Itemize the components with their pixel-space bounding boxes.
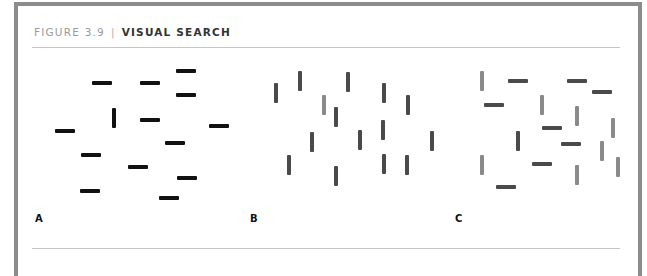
panel-c-line-horizontal xyxy=(484,103,504,107)
panel-b-line-vertical xyxy=(346,72,350,92)
panel-b-line-vertical xyxy=(287,155,291,175)
panel-c-line-vertical xyxy=(480,155,484,175)
panel-a-line-horizontal xyxy=(55,129,75,133)
panel-c-line-horizontal xyxy=(561,142,581,146)
panel-a-line-horizontal xyxy=(209,124,229,128)
panel-b-line-vertical xyxy=(382,83,386,103)
figure-heading: VISUAL SEARCH xyxy=(122,26,231,38)
panel-a-line-horizontal xyxy=(140,118,160,122)
panel-b-line-vertical xyxy=(334,107,338,127)
panel-a-line-horizontal xyxy=(177,176,197,180)
panel-b-line-vertical xyxy=(358,130,362,150)
panel-c-line-vertical xyxy=(575,106,579,126)
panel-a-line-horizontal xyxy=(176,93,196,97)
panel-b-line-vertical xyxy=(298,71,302,91)
panel-label-b: B xyxy=(250,213,258,224)
panel-c-line-horizontal xyxy=(592,90,612,94)
panel-a-line-horizontal xyxy=(176,69,196,73)
figure-title: FIGURE 3.9|VISUAL SEARCH xyxy=(34,26,231,38)
panel-c-line-horizontal xyxy=(532,162,552,166)
title-separator: | xyxy=(111,26,116,38)
panel-a-line-horizontal xyxy=(165,141,185,145)
panel-c-line-horizontal xyxy=(496,185,516,189)
panel-a-line-horizontal xyxy=(92,81,112,85)
panel-b-line-vertical xyxy=(382,154,386,174)
figure-number: FIGURE 3.9 xyxy=(34,26,105,38)
panel-a-line-horizontal xyxy=(128,165,148,169)
panel-c-line-horizontal xyxy=(542,126,562,130)
panel-c-line-vertical xyxy=(611,118,615,138)
panel-a-line-horizontal xyxy=(159,196,179,200)
panel-a-line-horizontal xyxy=(140,81,160,85)
panel-a-line-horizontal xyxy=(81,153,101,157)
title-divider xyxy=(32,47,620,48)
bottom-divider xyxy=(32,248,620,249)
panel-c-line-horizontal xyxy=(508,79,528,83)
panel-label-a: A xyxy=(35,213,43,224)
panel-b-line-vertical xyxy=(334,166,338,186)
panel-b-line-vertical xyxy=(274,83,278,103)
panel-b-line-vertical xyxy=(430,131,434,151)
panel-c-line-vertical xyxy=(516,131,520,151)
panel-b-line-vertical xyxy=(405,155,409,175)
figure-frame xyxy=(14,2,642,276)
panel-c-line-vertical xyxy=(600,141,604,161)
panel-a-line-vertical xyxy=(112,108,116,128)
panel-c-line-vertical xyxy=(616,157,620,177)
panel-b-line-vertical xyxy=(310,132,314,152)
panel-b-line-vertical xyxy=(381,120,385,140)
panel-c-line-vertical xyxy=(540,95,544,115)
panel-b-line-vertical xyxy=(322,95,326,115)
panel-c-line-vertical xyxy=(480,71,484,91)
panel-a-line-horizontal xyxy=(80,189,100,193)
panel-c-line-vertical xyxy=(575,165,579,185)
panel-c-line-horizontal xyxy=(567,79,587,83)
panel-label-c: C xyxy=(455,213,462,224)
panel-b-line-vertical xyxy=(406,95,410,115)
